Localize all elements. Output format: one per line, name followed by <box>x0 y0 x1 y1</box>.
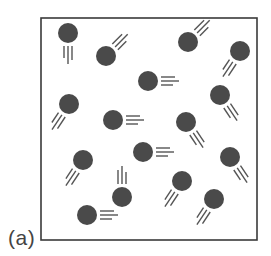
container-box <box>41 18 257 240</box>
particle <box>103 110 144 130</box>
particle-circle <box>176 112 196 132</box>
particle <box>178 20 210 52</box>
particle <box>210 85 238 121</box>
motion-trail-line <box>52 115 62 130</box>
particle <box>138 71 179 91</box>
particle-circle <box>204 189 224 209</box>
particle <box>66 150 93 186</box>
particle-circle <box>230 41 250 61</box>
motion-trail-line <box>237 168 247 183</box>
particles-group <box>52 20 250 225</box>
particle <box>52 94 79 130</box>
particle <box>176 112 204 148</box>
particle-circle <box>59 94 79 114</box>
particle <box>223 41 250 77</box>
particle-circle <box>96 46 116 66</box>
figure-label: (a) <box>8 226 35 250</box>
particle-circle <box>133 142 153 162</box>
motion-trail-line <box>66 171 76 186</box>
motion-trail-line <box>194 20 204 30</box>
particle-circle <box>220 147 240 167</box>
motion-trail-line <box>115 34 128 47</box>
particle <box>58 23 78 64</box>
particle-circle <box>138 71 158 91</box>
motion-trail-line <box>197 210 207 225</box>
gas-particles-diagram <box>0 0 271 256</box>
particle <box>96 34 128 66</box>
particle-circle <box>73 150 93 170</box>
particle <box>112 166 132 207</box>
motion-trail-line <box>197 20 210 33</box>
particle <box>165 171 192 207</box>
motion-trail-line <box>223 62 233 77</box>
motion-trail-line <box>165 192 175 207</box>
motion-trail-line <box>227 106 237 121</box>
particle-circle <box>210 85 230 105</box>
particle <box>220 147 248 183</box>
particle-circle <box>77 205 97 225</box>
particle <box>197 189 224 225</box>
motion-trail-line <box>193 133 203 148</box>
particle <box>77 205 118 225</box>
particle-circle <box>103 110 123 130</box>
particle <box>133 142 174 162</box>
particle-circle <box>172 171 192 191</box>
particle-circle <box>178 32 198 52</box>
particle-circle <box>58 23 78 43</box>
particle-circle <box>112 187 132 207</box>
motion-trail-line <box>112 34 122 44</box>
